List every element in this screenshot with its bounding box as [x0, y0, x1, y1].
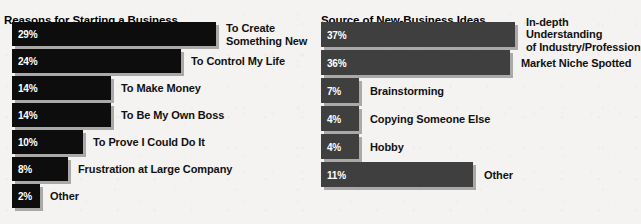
bar-row: 14%To Be My Own Boss — [0, 103, 320, 127]
bar-row: 10%To Prove I Could Do It — [0, 130, 320, 154]
reasons-bar-label: To Prove I Could Do It — [93, 136, 205, 149]
source-bar-value: 7% — [327, 85, 341, 96]
source-bar-value: 36% — [327, 57, 346, 68]
bar-row: 24%To Control My Life — [0, 49, 320, 73]
bar-row: 8%Frustration at Large Company — [0, 157, 320, 181]
reasons-bar-label: To Be My Own Boss — [121, 109, 224, 122]
source-bar-label: Brainstorming — [370, 84, 444, 97]
source-bar-label: Other — [484, 168, 513, 181]
bar-row: 4%Hobby — [320, 134, 641, 159]
reasons-bar-value: 10% — [18, 137, 37, 148]
reasons-bar-value: 14% — [18, 110, 37, 121]
source-bar-label: Market Niche Spotted — [521, 56, 631, 69]
bar-row: 7%Brainstorming — [320, 78, 641, 103]
bar-row: 36%Market Niche Spotted — [320, 50, 641, 75]
source-bar: 37% — [321, 22, 515, 47]
reasons-bar-label: To Make Money — [121, 82, 201, 95]
source-bar-label: Copying Someone Else — [370, 112, 490, 125]
bar-row: 2%Other — [0, 184, 320, 208]
source-bar-label: In-depth Understanding of Industry/Profe… — [526, 16, 641, 54]
source-bar: 4% — [321, 134, 359, 159]
source-bar: 4% — [321, 106, 359, 131]
bar-row: 37%In-depth Understanding of Industry/Pr… — [320, 22, 641, 47]
bar-plot-source: 37%In-depth Understanding of Industry/Pr… — [320, 0, 641, 224]
reasons-bar-value: 8% — [18, 164, 32, 175]
source-bar-value: 11% — [327, 169, 346, 180]
chart-panel-reasons-for-starting-a-business: Reasons for Starting a Business 29%To Cr… — [0, 0, 320, 224]
bar-row: 14%To Make Money — [0, 76, 320, 100]
bar-row: 4%Copying Someone Else — [320, 106, 641, 131]
reasons-bar: 2% — [12, 184, 40, 208]
reasons-bar: 24% — [12, 49, 181, 73]
bar-plot-reasons: 29%To Create Something New24%To Control … — [0, 0, 320, 224]
source-bar-value: 37% — [327, 29, 346, 40]
reasons-bar-value: 29% — [18, 29, 37, 40]
source-bar-label: Hobby — [370, 140, 404, 153]
bar-row: 29%To Create Something New — [0, 22, 320, 46]
reasons-bar: 14% — [12, 76, 111, 100]
chart-page: Reasons for Starting a Business 29%To Cr… — [0, 0, 641, 224]
reasons-bar: 14% — [12, 103, 111, 127]
reasons-bar-value: 14% — [18, 83, 37, 94]
reasons-bar-value: 24% — [18, 56, 37, 67]
chart-panel-source-of-new-business-ideas: Source of New-Business Ideas 37%In-depth… — [320, 0, 641, 224]
reasons-bar: 29% — [12, 22, 216, 46]
reasons-bar-label: Other — [50, 190, 79, 203]
reasons-bar-label: To Create Something New — [226, 22, 307, 47]
bar-row: 11%Other — [320, 162, 641, 187]
source-bar: 7% — [321, 78, 359, 103]
reasons-bar: 10% — [12, 130, 83, 154]
reasons-bar-value: 2% — [18, 191, 32, 202]
source-bar-value: 4% — [327, 141, 341, 152]
source-bar-value: 4% — [327, 113, 341, 124]
reasons-bar-label: Frustration at Large Company — [78, 163, 232, 176]
reasons-bar-label: To Control My Life — [191, 55, 285, 68]
source-bar: 36% — [321, 50, 510, 75]
reasons-bar: 8% — [12, 157, 68, 181]
source-bar: 11% — [321, 162, 473, 187]
